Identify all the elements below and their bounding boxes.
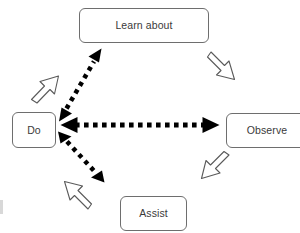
node-assist[interactable]: Assist xyxy=(120,196,187,231)
node-assist-label: Assist xyxy=(139,208,168,219)
outline-arrow-observe-to-assist xyxy=(202,152,230,179)
left-edge-artifact xyxy=(0,200,3,214)
node-do[interactable]: Do xyxy=(12,112,56,148)
dotted-arrow-do-to-observe xyxy=(61,117,220,133)
outline-arrow-do-to-learn xyxy=(32,76,59,103)
outline-arrow-learn-to-observe xyxy=(208,52,235,80)
node-observe-label: Observe xyxy=(247,125,287,136)
node-learn-about[interactable]: Learn about xyxy=(79,8,209,43)
dotted-arrow-do-to-learn xyxy=(59,49,102,122)
outline-arrow-assist-to-do xyxy=(65,182,92,210)
diagram-canvas: Learn about Observe Assist Do xyxy=(0,0,300,233)
node-learn-about-label: Learn about xyxy=(115,20,172,31)
node-do-label: Do xyxy=(27,125,41,136)
dotted-arrow-do-to-assist xyxy=(58,132,105,183)
node-observe[interactable]: Observe xyxy=(226,113,300,148)
